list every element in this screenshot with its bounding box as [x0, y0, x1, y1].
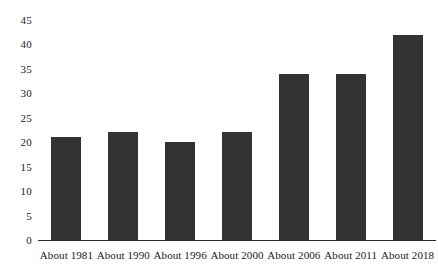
bar-series	[38, 0, 436, 240]
bar[interactable]	[393, 35, 423, 240]
bar[interactable]	[222, 132, 252, 240]
y-axis-tick-label: 5	[26, 210, 32, 221]
y-axis-tick-label: 15	[21, 161, 32, 172]
y-axis-tick-label: 10	[21, 186, 32, 197]
plot-area: About 1981About 1990About 1996About 2000…	[38, 0, 436, 274]
x-axis-tick-label: About 2006	[267, 249, 320, 261]
bar[interactable]	[108, 132, 138, 240]
y-axis-tick-label: 35	[21, 63, 32, 74]
y-axis: 051015202530354045	[0, 0, 36, 274]
x-axis-tick-label: About 1981	[40, 249, 93, 261]
y-axis-tick-label: 45	[21, 15, 32, 26]
x-axis-tick-label: About 2011	[324, 249, 377, 261]
y-axis-tick-label: 40	[21, 39, 32, 50]
x-axis-baseline	[38, 240, 436, 241]
x-axis-tick-label: About 2000	[210, 249, 263, 261]
x-axis-tick-label: About 1990	[97, 249, 150, 261]
bar[interactable]	[279, 74, 309, 240]
y-axis-tick-label: 25	[21, 112, 32, 123]
bar[interactable]	[51, 137, 81, 240]
x-axis-tick-label: About 1996	[154, 249, 207, 261]
bar[interactable]	[165, 142, 195, 240]
y-axis-tick-label: 30	[21, 88, 32, 99]
x-axis-tick-label: About 2018	[381, 249, 434, 261]
bar[interactable]	[336, 74, 366, 240]
bar-chart: 051015202530354045 About 1981About 1990A…	[0, 0, 438, 274]
y-axis-tick-label: 0	[26, 235, 32, 246]
y-axis-tick-label: 20	[21, 137, 32, 148]
